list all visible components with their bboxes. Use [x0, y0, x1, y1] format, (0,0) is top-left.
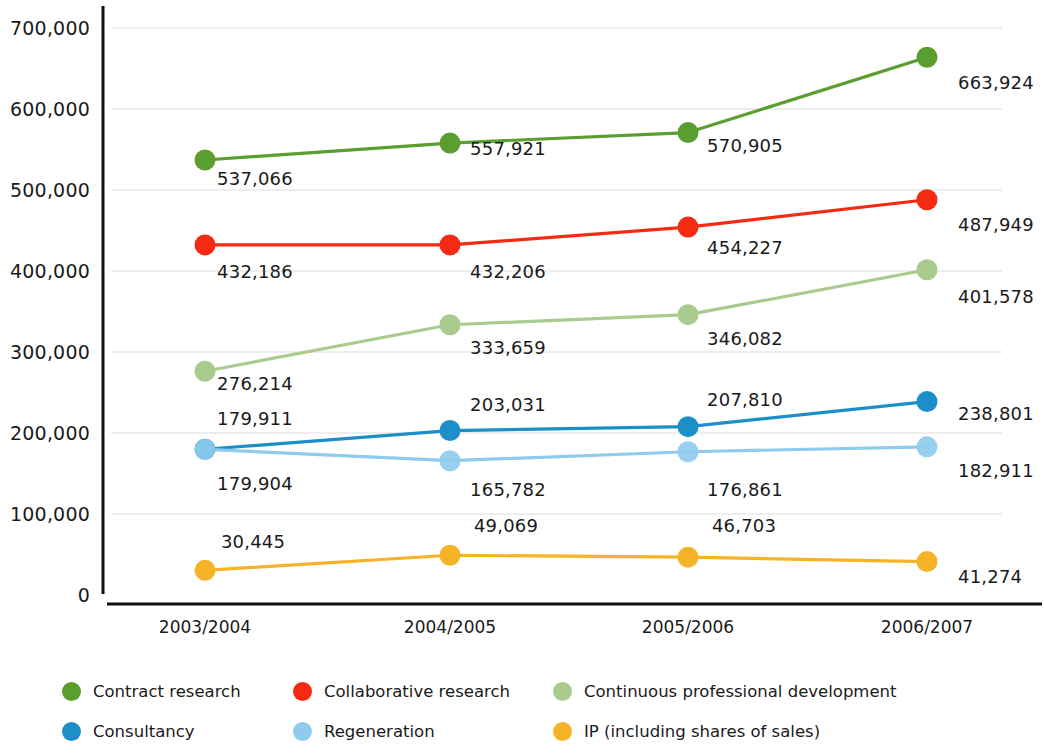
- data-point-value-label: 570,905: [707, 135, 783, 156]
- data-point-marker[interactable]: [917, 189, 938, 210]
- data-point-marker[interactable]: [195, 439, 216, 460]
- data-point-marker[interactable]: [195, 149, 216, 170]
- x-axis-tick-label: 2006/2007: [881, 617, 973, 637]
- legend-item[interactable]: Collaborative research: [293, 682, 510, 701]
- circle-swatch-icon: [553, 682, 572, 701]
- legend-item[interactable]: Consultancy: [62, 722, 195, 741]
- data-point-value-label: 46,703: [712, 515, 776, 536]
- data-point-marker[interactable]: [440, 234, 461, 255]
- data-point-marker[interactable]: [440, 314, 461, 335]
- data-point-marker[interactable]: [917, 436, 938, 457]
- chart-legend: Contract researchCollaborative researchC…: [0, 678, 1044, 753]
- data-point-value-label: 179,904: [217, 473, 293, 494]
- circle-swatch-icon: [293, 722, 312, 741]
- data-point-value-label: 30,445: [221, 531, 285, 552]
- data-point-marker[interactable]: [678, 441, 699, 462]
- legend-item-label: Collaborative research: [324, 682, 510, 701]
- circle-swatch-icon: [293, 682, 312, 701]
- legend-item-label: IP (including shares of sales): [584, 722, 820, 741]
- data-point-value-label: 41,274: [958, 566, 1022, 587]
- data-point-marker[interactable]: [440, 420, 461, 441]
- data-point-marker[interactable]: [195, 361, 216, 382]
- series-line: [205, 447, 927, 461]
- data-point-marker[interactable]: [678, 217, 699, 238]
- data-point-marker[interactable]: [917, 259, 938, 280]
- legend-item-label: Consultancy: [93, 722, 195, 741]
- data-point-marker[interactable]: [440, 133, 461, 154]
- data-point-value-label: 182,911: [958, 460, 1034, 481]
- data-point-value-label: 49,069: [474, 515, 538, 536]
- data-point-marker[interactable]: [195, 560, 216, 581]
- series-line: [205, 555, 927, 570]
- data-point-value-label: 454,227: [707, 237, 783, 258]
- data-point-value-label: 401,578: [958, 286, 1034, 307]
- data-point-marker[interactable]: [917, 47, 938, 68]
- data-point-value-label: 207,810: [707, 389, 783, 410]
- data-point-value-label: 432,206: [470, 261, 546, 282]
- data-point-marker[interactable]: [440, 545, 461, 566]
- legend-item-label: Regeneration: [324, 722, 435, 741]
- x-axis-tick-label: 2003/2004: [159, 617, 251, 637]
- legend-item-label: Continuous professional development: [584, 682, 897, 701]
- data-point-value-label: 165,782: [470, 479, 546, 500]
- series-line: [205, 270, 927, 372]
- data-point-value-label: 238,801: [958, 403, 1034, 424]
- data-point-marker[interactable]: [678, 122, 699, 143]
- data-point-value-label: 333,659: [470, 337, 546, 358]
- data-point-value-label: 663,924: [958, 72, 1034, 93]
- x-axis-tick-label: 2005/2006: [642, 617, 734, 637]
- legend-item[interactable]: Contract research: [62, 682, 241, 701]
- data-point-marker[interactable]: [678, 547, 699, 568]
- chart-page: 0100,000200,000300,000400,000500,000600,…: [0, 0, 1044, 753]
- series-line: [205, 402, 927, 450]
- legend-item[interactable]: Regeneration: [293, 722, 435, 741]
- data-point-value-label: 432,186: [217, 261, 293, 282]
- data-point-marker[interactable]: [678, 304, 699, 325]
- data-point-value-label: 276,214: [217, 373, 293, 394]
- data-point-marker[interactable]: [917, 551, 938, 572]
- series-line: [205, 200, 927, 245]
- data-point-value-label: 487,949: [958, 214, 1034, 235]
- data-point-value-label: 537,066: [217, 168, 293, 189]
- legend-item[interactable]: IP (including shares of sales): [553, 722, 820, 741]
- data-point-value-label: 346,082: [707, 328, 783, 349]
- chart-plot-area: 0100,000200,000300,000400,000500,000600,…: [0, 0, 1044, 660]
- data-point-value-label: 203,031: [470, 394, 546, 415]
- data-point-marker[interactable]: [440, 450, 461, 471]
- legend-item[interactable]: Continuous professional development: [553, 682, 897, 701]
- circle-swatch-icon: [62, 682, 81, 701]
- data-point-value-label: 176,861: [707, 479, 783, 500]
- circle-swatch-icon: [62, 722, 81, 741]
- data-point-marker[interactable]: [678, 416, 699, 437]
- data-point-value-label: 179,911: [217, 408, 293, 429]
- chart-canvas: [0, 0, 1044, 660]
- circle-swatch-icon: [553, 722, 572, 741]
- data-point-marker[interactable]: [917, 391, 938, 412]
- legend-item-label: Contract research: [93, 682, 241, 701]
- x-axis-tick-label: 2004/2005: [404, 617, 496, 637]
- data-point-value-label: 557,921: [470, 138, 546, 159]
- data-point-marker[interactable]: [195, 234, 216, 255]
